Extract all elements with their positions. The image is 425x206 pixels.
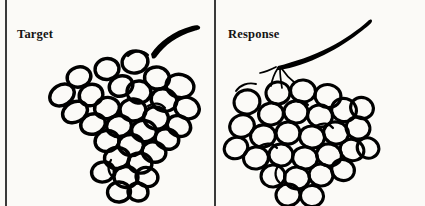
response-berry [307, 162, 334, 188]
target-berry [78, 111, 108, 138]
target-berry [59, 97, 91, 127]
response-stem-fork [260, 67, 276, 73]
response-stem-fork [271, 68, 278, 86]
response-berry [276, 122, 300, 144]
target-berry [127, 182, 149, 203]
response-berry [299, 184, 324, 206]
response-stem-fork [282, 69, 294, 82]
response-berry-detail [260, 144, 277, 148]
response-berry-detail [290, 101, 308, 105]
target-berry [134, 165, 160, 189]
response-berry [260, 164, 285, 188]
response-berry [321, 120, 350, 147]
response-berry [276, 184, 301, 206]
response-panel: Response [216, 0, 425, 206]
response-stem-fork [280, 69, 282, 88]
response-berry [231, 87, 262, 117]
target-berry [89, 160, 116, 185]
response-berry [354, 134, 382, 161]
target-panel: Target [7, 0, 214, 206]
target-berry [120, 49, 150, 76]
target-berry [65, 64, 93, 90]
target-berry [148, 86, 180, 115]
target-berry-detail [148, 104, 165, 108]
target-berry [171, 94, 202, 123]
target-berry [93, 129, 120, 154]
response-berry [314, 142, 343, 169]
target-stem-icon [151, 25, 200, 58]
response-berry [298, 125, 325, 149]
response-berry [329, 96, 359, 124]
target-berry [107, 181, 131, 203]
response-berry [313, 82, 343, 109]
response-berry [257, 101, 285, 127]
comparison-figure: Target [0, 0, 425, 206]
target-berry [130, 118, 158, 143]
target-berry [119, 98, 146, 122]
target-berry [141, 104, 171, 131]
target-berry [126, 80, 152, 104]
target-berry [46, 80, 79, 111]
response-berry-detail [276, 166, 280, 183]
response-berry [269, 144, 294, 167]
response-berry [226, 111, 257, 140]
target-berry [106, 115, 132, 138]
target-berry-detail [128, 51, 148, 56]
response-berry-detail [316, 124, 333, 128]
response-berry [329, 157, 357, 184]
response-berry [290, 79, 316, 103]
target-berry [106, 72, 135, 99]
response-berry [306, 103, 334, 128]
response-berry [265, 81, 291, 105]
target-berry [140, 139, 169, 165]
response-berry [242, 146, 269, 170]
target-berry [152, 125, 181, 152]
target-berry [143, 65, 171, 91]
response-berry [291, 146, 318, 170]
response-berry [337, 136, 366, 163]
response-berry [343, 114, 373, 142]
response-berry [249, 123, 277, 148]
response-berry [221, 134, 251, 163]
target-berry [93, 95, 121, 120]
response-panel-label: Response [228, 27, 280, 42]
target-berry [103, 146, 130, 169]
target-berry [76, 81, 106, 109]
target-berry-detail [109, 160, 113, 177]
target-berry [114, 166, 139, 188]
response-stem-icon [277, 20, 372, 71]
target-berry [94, 57, 121, 81]
response-berry [284, 166, 310, 190]
target-berry [164, 112, 194, 140]
response-berry [284, 101, 309, 124]
response-tendril [236, 83, 256, 91]
response-berry [348, 94, 377, 122]
target-berry [126, 151, 153, 175]
target-berry [118, 134, 144, 157]
target-berry [164, 71, 197, 100]
target-panel-label: Target [17, 27, 53, 42]
